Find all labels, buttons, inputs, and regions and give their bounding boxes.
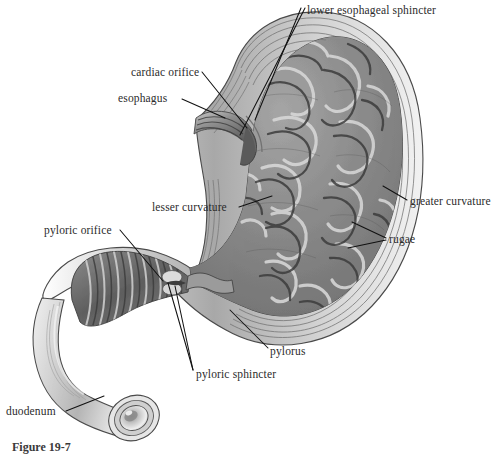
label-pyloric-sphincter: pyloric sphincter (196, 368, 276, 380)
duodenum-cut-end (101, 387, 167, 449)
label-esophagus: esophagus (118, 92, 167, 104)
figure-caption: Figure 19-7 (12, 440, 71, 454)
label-cardiac-orifice: cardiac orifice (131, 66, 199, 78)
label-pylorus: pylorus (270, 345, 306, 357)
label-pyloric-orifice: pyloric orifice (44, 224, 112, 236)
label-greater-curvature: greater curvature (410, 195, 491, 207)
label-duodenum: duodenum (6, 405, 56, 417)
label-lower-esophageal-sphincter: lower esophageal sphincter (307, 4, 436, 16)
label-lesser-curvature: lesser curvature (152, 201, 227, 213)
label-rugae: rugae (389, 233, 415, 245)
